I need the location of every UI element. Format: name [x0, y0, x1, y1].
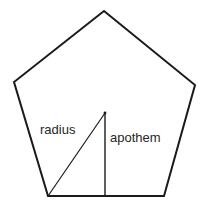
apothem-label: apothem	[110, 130, 161, 145]
center-point	[104, 112, 107, 115]
pentagon-diagram: radius apothem	[0, 0, 208, 212]
radius-label: radius	[40, 122, 75, 137]
pentagon-geometry-svg	[0, 0, 208, 212]
